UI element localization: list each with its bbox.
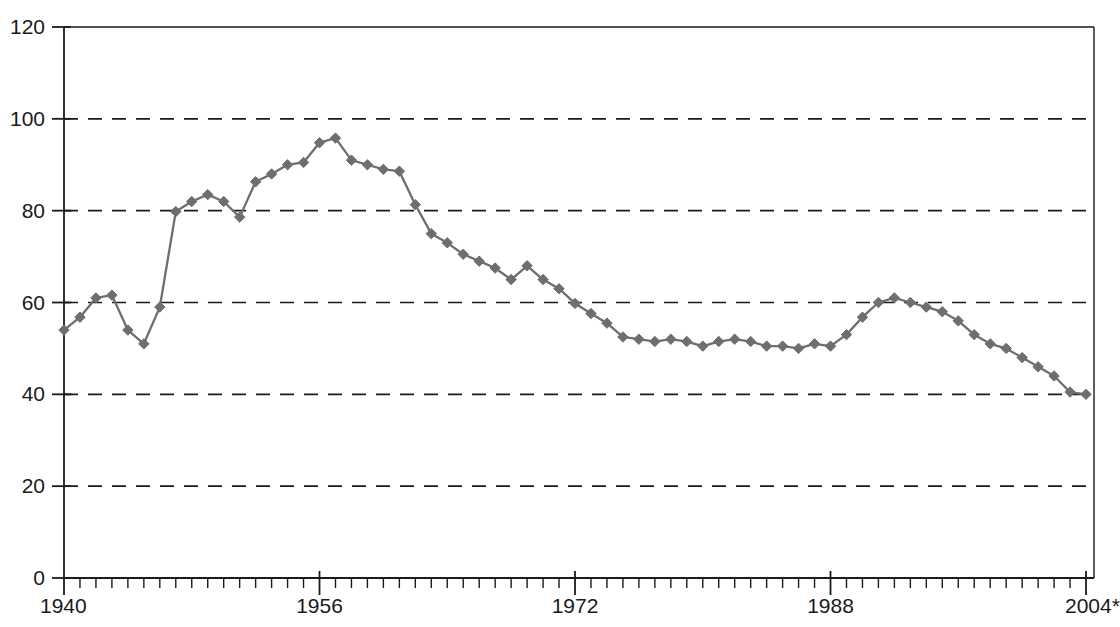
data-point-marker — [937, 306, 947, 316]
data-point-marker — [474, 256, 484, 266]
data-point-marker — [203, 189, 213, 199]
y-axis-tick-label: 0 — [33, 566, 45, 590]
data-point-marker — [155, 302, 165, 312]
data-point-marker — [1033, 362, 1043, 372]
data-point-marker — [410, 199, 420, 209]
y-axis-ticks-group — [52, 27, 71, 578]
x-axis-tick-label: 1972 — [552, 594, 599, 618]
data-point-marker — [266, 169, 276, 179]
y-axis-tick-label: 20 — [22, 474, 45, 498]
data-point-marker — [729, 334, 739, 344]
data-point-marker — [809, 339, 819, 349]
data-point-marker — [1001, 343, 1011, 353]
y-axis-tick-label: 100 — [10, 107, 45, 131]
data-point-marker — [985, 339, 995, 349]
data-point-marker — [921, 302, 931, 312]
data-point-marker — [634, 334, 644, 344]
data-point-marker — [889, 293, 899, 303]
data-point-marker — [362, 160, 372, 170]
gridlines-group — [64, 27, 1094, 486]
data-point-marker — [107, 290, 117, 300]
x-axis-ticks-group — [64, 571, 1086, 595]
data-point-marker — [1017, 352, 1027, 362]
data-point-marker — [793, 343, 803, 353]
data-point-marker — [905, 297, 915, 307]
y-axis-tick-label: 120 — [10, 15, 45, 39]
data-point-marker — [714, 336, 724, 346]
y-axis-tick-label: 80 — [22, 199, 45, 223]
x-axis-tick-label: 1956 — [296, 594, 343, 618]
data-series-group — [59, 133, 1091, 400]
data-point-marker — [777, 341, 787, 351]
x-axis-tick-label: 1940 — [40, 594, 87, 618]
y-axis-tick-label: 40 — [22, 382, 45, 406]
data-point-marker — [650, 336, 660, 346]
y-axis-tick-label: 60 — [22, 291, 45, 315]
data-point-marker — [1081, 389, 1091, 399]
data-point-marker — [666, 334, 676, 344]
x-axis-tick-label: 1988 — [807, 594, 854, 618]
data-point-marker — [745, 336, 755, 346]
data-point-marker — [682, 336, 692, 346]
x-axis-tick-label: 2004* — [1065, 594, 1120, 618]
data-point-marker — [394, 166, 404, 176]
data-point-marker — [426, 228, 436, 238]
data-point-marker — [378, 164, 388, 174]
data-point-marker — [761, 341, 771, 351]
data-point-marker — [250, 177, 260, 187]
data-point-marker — [698, 341, 708, 351]
data-point-marker — [282, 160, 292, 170]
